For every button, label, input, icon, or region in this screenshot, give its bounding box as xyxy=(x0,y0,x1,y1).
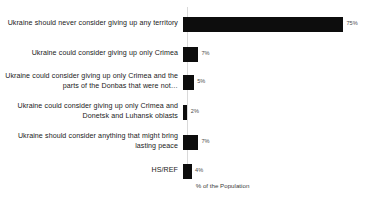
category-label: Ukraine should consider anything that mi… xyxy=(0,132,182,151)
bar-zone: 7% xyxy=(182,41,369,67)
category-label: Ukraine could consider giving up only Cr… xyxy=(0,49,182,59)
bar-value-label: 4% xyxy=(195,168,203,174)
bar-value-label: 7% xyxy=(201,139,209,145)
category-label: Ukraine should never consider giving up … xyxy=(0,19,182,29)
bar xyxy=(183,105,187,120)
category-label: Ukraine could consider giving up only Cr… xyxy=(0,102,182,121)
bar xyxy=(183,135,198,150)
bar xyxy=(183,75,194,90)
bar-zone: 75% xyxy=(182,7,369,41)
bar-rows: Ukraine should never consider giving up … xyxy=(0,7,369,185)
bar-zone: 7% xyxy=(182,127,369,157)
bar-row: Ukraine should never consider giving up … xyxy=(0,7,369,41)
plot-area: Ukraine should never consider giving up … xyxy=(0,0,369,175)
bar-row: Ukraine could consider giving up only Cr… xyxy=(0,41,369,67)
bar-row: Ukraine could consider giving up only Cr… xyxy=(0,67,369,97)
category-label: Ukraine could consider giving up only Cr… xyxy=(0,72,182,91)
category-label: HS/REF xyxy=(0,166,182,176)
bar-row: HS/REF4% xyxy=(0,157,369,185)
bar-zone: 4% xyxy=(182,157,369,185)
bar-row: Ukraine should consider anything that mi… xyxy=(0,127,369,157)
bar-value-label: 5% xyxy=(197,79,205,85)
bar xyxy=(183,17,343,32)
bar-value-label: 75% xyxy=(347,21,358,27)
bar-chart: Ukraine should never consider giving up … xyxy=(0,0,369,203)
x-axis-label-text: % of the Population xyxy=(196,182,250,189)
bar-value-label: 7% xyxy=(201,51,209,57)
bar xyxy=(183,47,198,62)
bar-zone: 2% xyxy=(182,97,369,127)
bar-row: Ukraine could consider giving up only Cr… xyxy=(0,97,369,127)
bar-zone: 5% xyxy=(182,67,369,97)
bar-value-label: 2% xyxy=(191,109,199,115)
bar xyxy=(183,164,192,179)
x-axis-label: % of the Population xyxy=(0,182,369,189)
